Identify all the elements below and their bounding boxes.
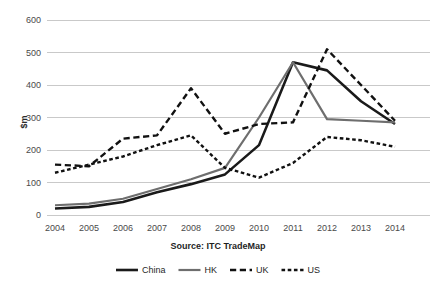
legend-label-hk: HK <box>204 265 217 275</box>
legend-label-china: China <box>142 265 166 275</box>
y-tick-label: 200 <box>26 145 41 155</box>
chart-container: 0100200300400500600 20042005200620072008… <box>0 0 437 286</box>
x-tick-label: 2006 <box>113 223 133 233</box>
x-tick-label: 2014 <box>385 223 405 233</box>
y-tick-label: 600 <box>26 15 41 25</box>
y-axis-title: $m <box>19 115 29 128</box>
x-tick-label: 2011 <box>283 223 302 233</box>
source-note: Source: ITC TradeMap <box>170 241 266 251</box>
x-tick-label: 2004 <box>45 223 65 233</box>
x-tick-label: 2013 <box>351 223 371 233</box>
y-tick-label: 0 <box>36 210 41 220</box>
legend-label-uk: UK <box>256 265 269 275</box>
y-tick-label: 400 <box>26 80 41 90</box>
x-tick-label: 2012 <box>317 223 337 233</box>
legend-label-us: US <box>308 265 321 275</box>
x-axis-tick-labels: 2004200520062007200820092010201120122013… <box>45 223 405 233</box>
y-tick-label: 500 <box>26 48 41 58</box>
x-tick-label: 2007 <box>147 223 167 233</box>
x-tick-label: 2008 <box>181 223 201 233</box>
x-tick-label: 2010 <box>249 223 269 233</box>
x-tick-label: 2005 <box>79 223 99 233</box>
line-chart: 0100200300400500600 20042005200620072008… <box>0 0 437 286</box>
y-tick-label: 100 <box>26 178 41 188</box>
x-tick-label: 2009 <box>215 223 235 233</box>
